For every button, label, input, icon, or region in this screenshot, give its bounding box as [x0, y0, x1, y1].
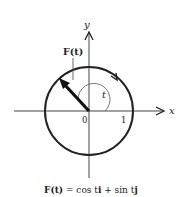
- caption: F(t) = cos ti + sin tj: [44, 185, 138, 195]
- caption-lhs: F(t): [44, 185, 63, 195]
- caption-plus: + sin t: [101, 185, 134, 195]
- vector-label: F(t): [63, 46, 83, 57]
- caption-eq: = cos t: [63, 185, 98, 195]
- unit-tick-label: 1: [121, 115, 126, 125]
- caption-j: j: [133, 185, 137, 195]
- origin-label: 0: [82, 115, 87, 125]
- x-axis-label: x: [169, 105, 175, 116]
- vector-f-t: [64, 84, 89, 111]
- unit-circle-diagram: y x 0 1 t F(t) F(t) = cos ti + sin tj: [0, 0, 183, 197]
- y-axis-label: y: [83, 19, 90, 30]
- angle-label: t: [102, 89, 106, 100]
